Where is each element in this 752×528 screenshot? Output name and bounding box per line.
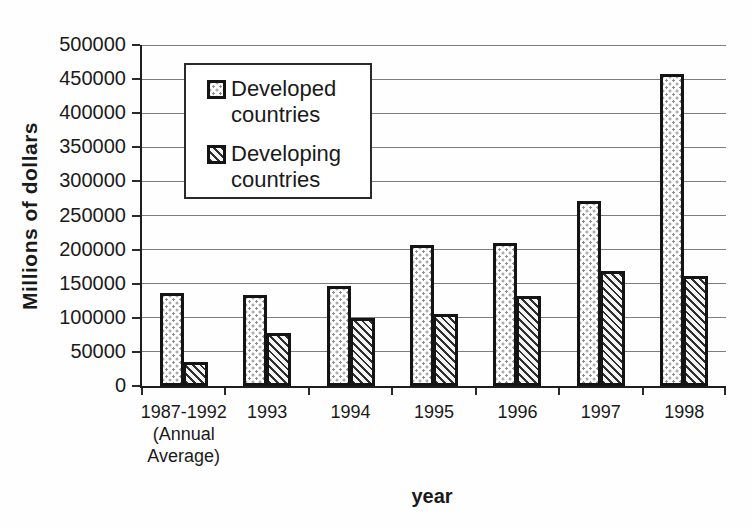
y-axis-tick-label: 200000: [59, 238, 126, 261]
bar-group: [643, 45, 726, 386]
x-axis-tick: [642, 388, 644, 395]
bar-developed-1998: [660, 74, 684, 386]
y-axis-tick: [132, 215, 140, 217]
y-axis-title-text: Millions of dollars: [18, 121, 42, 309]
y-axis-tick: [132, 180, 140, 182]
y-axis-tick-label: 50000: [70, 340, 126, 363]
x-axis-tick-label: 1993: [219, 402, 314, 424]
y-axis-tick: [132, 78, 140, 80]
y-axis-tick-label: 300000: [59, 169, 126, 192]
bar-developing-1987-1992: [183, 362, 208, 386]
legend-label-developed: Developed countries: [231, 76, 359, 128]
bar-developing-1998: [683, 276, 708, 386]
y-axis-tick-label: 150000: [59, 272, 126, 295]
x-axis-tick: [558, 388, 560, 395]
bar-developed-1997: [577, 201, 601, 386]
y-axis-tick: [132, 249, 140, 251]
y-axis-tick: [132, 112, 140, 114]
bar-developing-1995: [433, 314, 458, 386]
y-axis-tick-label: 400000: [59, 101, 126, 124]
legend-item-developing: Developing countries: [207, 141, 370, 193]
scanned-bar-chart-figure: Millions of dollars 05000010000015000020…: [0, 0, 752, 528]
y-axis-tick: [132, 385, 140, 387]
bar-developed-1993: [243, 295, 267, 386]
legend: Developed countries Developing countries: [184, 63, 372, 199]
bar-group: [476, 45, 559, 386]
x-axis-tick-label: 1996: [470, 402, 565, 424]
bar-developed-1987-1992: [160, 293, 184, 386]
x-axis-tick-label: 1987-1992 (Annual Average): [136, 402, 231, 468]
x-axis-tick-label: 1995: [386, 402, 481, 424]
x-axis-tick: [141, 388, 143, 395]
developed-series-swatch-icon: [207, 80, 226, 99]
x-axis-title: year: [140, 485, 724, 508]
y-axis-title: Millions of dollars: [6, 45, 54, 386]
bar-developed-1996: [493, 243, 517, 386]
y-axis-tick: [132, 351, 140, 353]
x-axis-tick: [391, 388, 393, 395]
y-axis-tick: [132, 146, 140, 148]
bar-developing-1993: [266, 333, 291, 386]
legend-label-developing: Developing countries: [231, 141, 359, 193]
y-axis-tick-label: 350000: [59, 135, 126, 158]
bar-group: [559, 45, 642, 386]
developing-series-swatch-icon: [207, 145, 226, 164]
legend-item-developed: Developed countries: [207, 76, 370, 128]
x-axis-tick: [308, 388, 310, 395]
y-axis-tick-label: 100000: [59, 306, 126, 329]
x-axis-tick: [724, 388, 726, 395]
x-axis-tick-label: 1998: [637, 402, 732, 424]
bar-developed-1995: [410, 245, 434, 386]
bar-developing-1997: [600, 271, 625, 386]
x-axis-tick: [224, 388, 226, 395]
bar-developing-1996: [516, 296, 541, 386]
x-axis-tick: [475, 388, 477, 395]
bar-developing-1994: [350, 318, 375, 386]
y-axis-tick: [132, 317, 140, 319]
y-axis-tick-label: 500000: [59, 33, 126, 56]
y-axis-tick: [132, 283, 140, 285]
y-axis-tick-label: 0: [115, 374, 126, 397]
y-axis-tick: [132, 44, 140, 46]
x-axis-tick-label: 1994: [303, 402, 398, 424]
bar-group: [392, 45, 475, 386]
x-axis-tick-label: 1997: [553, 402, 648, 424]
y-axis-tick-label: 450000: [59, 67, 126, 90]
bar-developed-1994: [327, 286, 351, 386]
y-axis-tick-label: 250000: [59, 204, 126, 227]
